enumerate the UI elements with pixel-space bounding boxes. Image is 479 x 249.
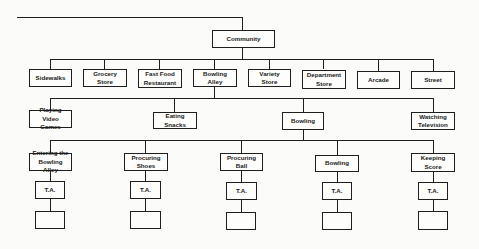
connector <box>241 140 242 153</box>
connector <box>433 98 434 112</box>
empty-node <box>418 211 448 230</box>
connector <box>145 171 146 181</box>
node-playing-video-games: Playing Video Games <box>29 110 72 128</box>
connector <box>242 17 243 30</box>
node-ta: T.A. <box>226 182 257 200</box>
connector <box>50 171 51 181</box>
level1-bar <box>50 59 434 60</box>
empty-node <box>322 212 352 230</box>
connector <box>323 59 324 69</box>
node-ta: T.A. <box>35 181 65 199</box>
connector <box>241 200 242 212</box>
connector <box>433 200 434 211</box>
connector <box>433 172 434 182</box>
empty-node <box>130 211 161 229</box>
connector <box>214 59 215 69</box>
connector <box>378 59 379 71</box>
connector <box>104 59 105 69</box>
connector <box>337 140 338 155</box>
connector <box>303 130 304 140</box>
connector <box>303 98 304 112</box>
empty-node <box>35 211 65 229</box>
node-bowling: Bowling <box>282 112 324 130</box>
node-bowling-activity: Bowling <box>315 155 359 172</box>
node-community: Community <box>212 30 275 48</box>
node-eating-snacks: Eating Snacks <box>153 112 197 129</box>
node-sidewalks: Sidewalks <box>29 69 72 87</box>
connector <box>214 87 215 98</box>
connector <box>159 59 160 69</box>
empty-node <box>226 212 256 230</box>
node-arcade: Arcade <box>357 71 400 89</box>
connector <box>337 200 338 212</box>
node-keeping-score: Keeping Score <box>411 153 455 172</box>
level3-bar <box>50 140 434 141</box>
node-watching-television: Watching Television <box>411 112 455 130</box>
connector <box>269 59 270 69</box>
node-bowling-alley: Bowling Alley <box>193 69 237 87</box>
hierarchy-diagram: Community Sidewalks Grocery Store Fast F… <box>0 0 479 249</box>
node-entering-bowling-alley: Entering the Bowling Alley <box>29 153 72 171</box>
node-grocery-store: Grocery Store <box>83 69 127 87</box>
connector <box>242 48 243 59</box>
connector <box>433 59 434 71</box>
node-fast-food-restaurant: Fast Food Restaurant <box>138 69 182 88</box>
connector <box>145 199 146 211</box>
node-department-store: Department Store <box>302 70 346 89</box>
node-street: Street <box>411 71 455 89</box>
connector <box>50 199 51 211</box>
connector <box>50 59 51 69</box>
node-variety-store: Variety Store <box>248 69 291 87</box>
connector <box>174 98 175 113</box>
node-procuring-ball: Procuring Ball <box>220 153 263 171</box>
connector <box>337 172 338 182</box>
connector <box>241 171 242 182</box>
node-ta: T.A. <box>418 182 448 200</box>
level2-bar <box>50 98 434 99</box>
incoming-connector <box>17 17 242 18</box>
node-procuring-shoes: Procuring Shoes <box>124 153 168 171</box>
connector <box>433 140 434 153</box>
node-ta: T.A. <box>322 182 352 200</box>
connector <box>145 140 146 153</box>
node-ta: T.A. <box>130 181 161 199</box>
